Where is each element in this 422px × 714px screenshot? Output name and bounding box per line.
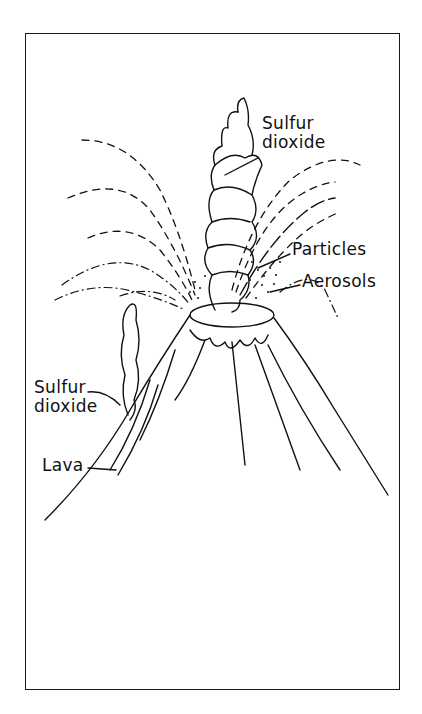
leader-lines [88,158,300,470]
lava-flows [110,380,158,475]
label-sulfur-dioxide-left: Sulfur dioxide [34,378,98,416]
volcano-illustration [0,0,422,714]
left-plume [121,304,139,420]
label-lava: Lava [42,456,84,475]
label-particles: Particles [292,240,366,259]
ejecta-arcs-left [55,140,195,310]
label-sulfur-dioxide-top: Sulfur dioxide [262,114,326,152]
label-aerosols: Aerosols [302,272,376,291]
central-plume [205,98,262,312]
particle-dots [189,261,281,299]
